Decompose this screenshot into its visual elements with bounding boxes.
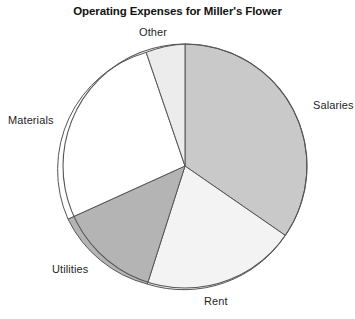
pie-label-rent: Rent: [204, 295, 228, 307]
pie-chart-figure: Operating Expenses for Miller's Flower O…: [0, 0, 355, 319]
pie-label-salaries: Salaries: [313, 99, 354, 111]
pie-label-other: Other: [139, 26, 167, 38]
pie-label-utilities: Utilities: [52, 263, 88, 275]
pie-slices: [58, 44, 307, 290]
pie-label-materials: Materials: [8, 114, 54, 126]
